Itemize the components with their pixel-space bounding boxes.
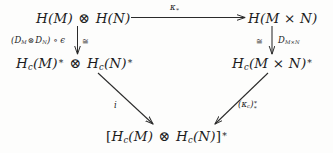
label-left-vertical-text: (DM⊗DN) ∘ ϵ [11, 35, 65, 45]
label-right-vertical-iso: ≅ [256, 37, 263, 46]
label-left-vertical: (DM⊗DN) ∘ ϵ [11, 35, 65, 45]
node-top-left-text: H(M) ⊗ H(N) [36, 10, 131, 26]
arrow-left-diagonal [98, 73, 153, 124]
node-bottom: [Hc(M) ⊗ Hc(N)]∗ [106, 128, 228, 144]
label-right-diagonal: (κc)∗∗ [238, 99, 257, 109]
node-top-right-text: H(M × N) [248, 10, 317, 26]
commutative-diagram: H(M) ⊗ H(N) H(M × N) Hc(M)∗ ⊗ Hc(N)∗ Hc(… [0, 0, 333, 153]
iso-symbol-left: ≅ [82, 37, 89, 46]
node-middle-left-text: Hc(M)∗ ⊗ Hc(N)∗ [16, 55, 133, 71]
node-middle-right-text: Hc(M × N)∗ [232, 55, 313, 71]
label-kappa-star: κ∗ [170, 2, 179, 12]
label-left-vertical-iso: ≅ [82, 37, 89, 46]
label-right-vertical: DM×N [278, 35, 300, 45]
node-top-left: H(M) ⊗ H(N) [36, 10, 131, 26]
node-middle-left: Hc(M)∗ ⊗ Hc(N)∗ [16, 55, 133, 71]
iso-symbol-right: ≅ [256, 37, 263, 46]
label-i-text: i [114, 100, 117, 110]
node-middle-right: Hc(M × N)∗ [232, 55, 313, 71]
node-bottom-text: [Hc(M) ⊗ Hc(N)]∗ [106, 128, 228, 144]
label-right-vertical-text: DM×N [278, 35, 300, 45]
label-left-diagonal: i [114, 100, 117, 110]
label-kappa-c-text: (κc)∗∗ [238, 99, 257, 109]
label-top-horizontal: κ∗ [170, 2, 179, 12]
node-top-right: H(M × N) [248, 10, 317, 26]
